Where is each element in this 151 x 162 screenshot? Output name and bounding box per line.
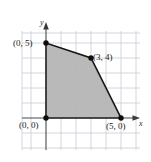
vertex-label-upper-right: (3, 4) (93, 52, 113, 62)
vertex-label-top-left: (0, 5) (13, 38, 33, 48)
figure-container: 13. (0, 0, 151, 162)
vertex-dot-5-0 (118, 115, 123, 120)
vertex-label-bottom-right: (5, 0) (106, 121, 126, 131)
vertex-dot-0-0 (43, 115, 48, 120)
vertex-dot-0-5 (43, 40, 48, 45)
vertex-label-origin: (0, 0) (19, 120, 39, 130)
x-axis-label: x (139, 120, 143, 128)
y-axis-label: y (40, 19, 44, 27)
coordinate-plane-graph (0, 0, 151, 162)
